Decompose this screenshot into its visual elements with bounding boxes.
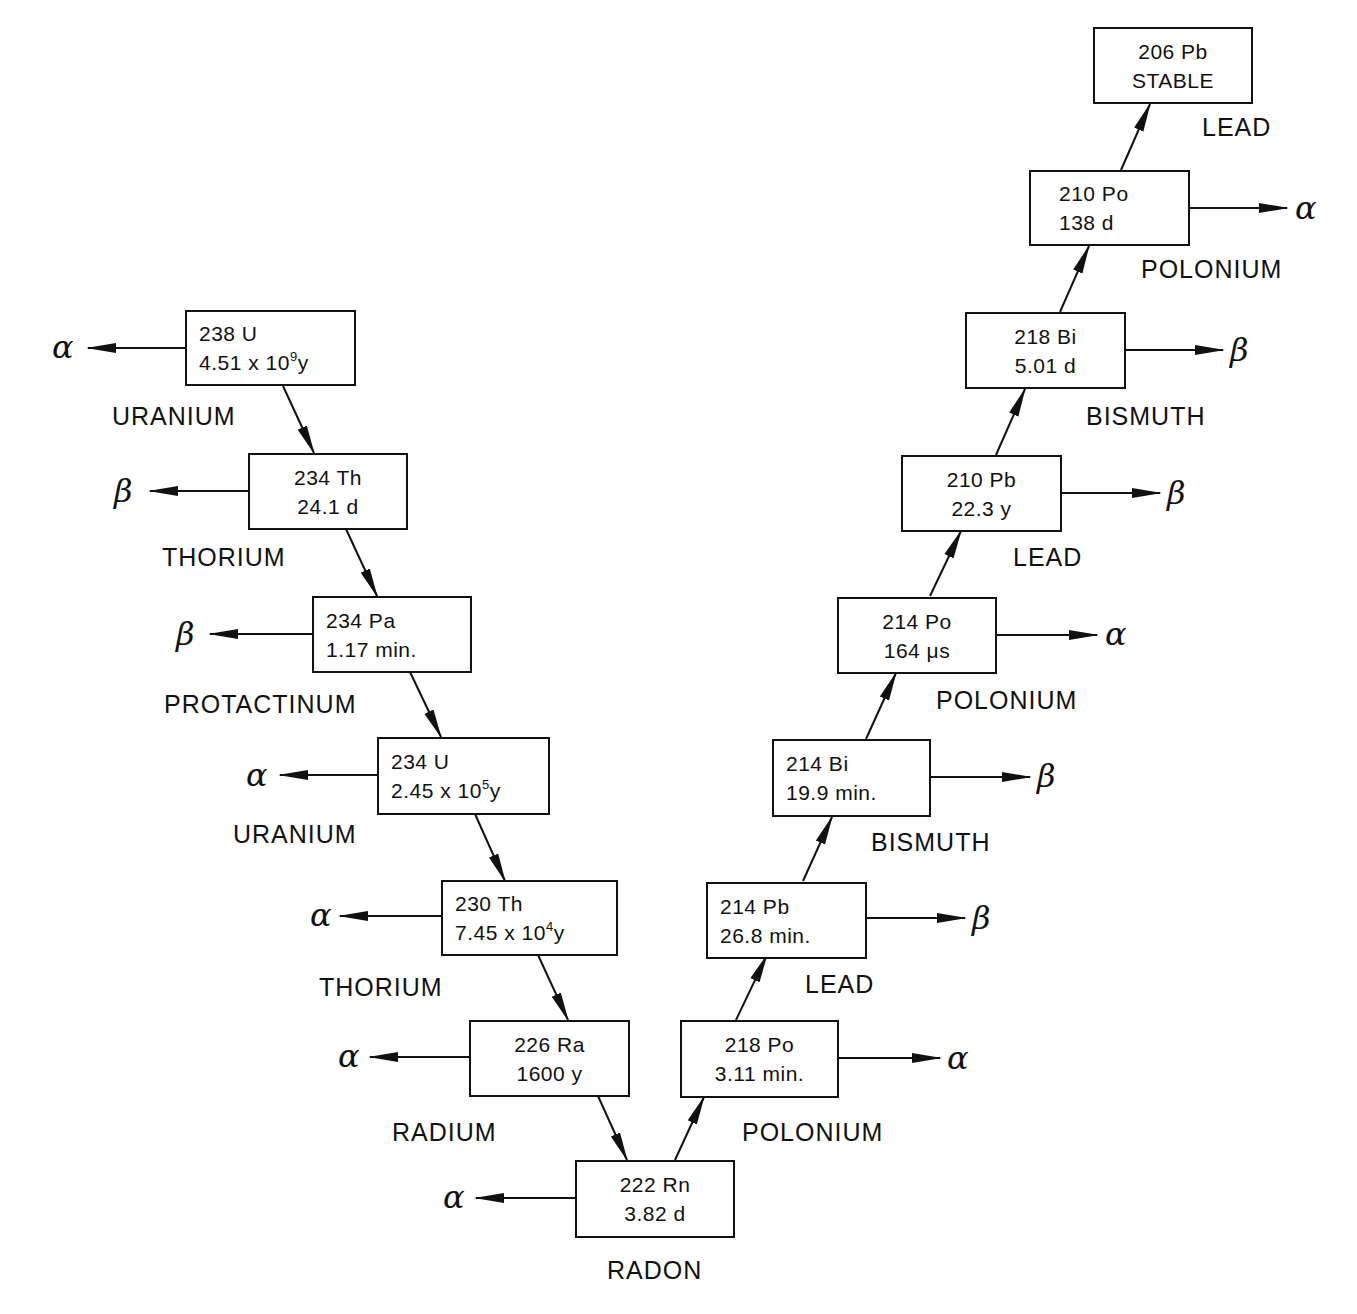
nuclide-box-pb210: 210 Pb 22.3 y xyxy=(901,455,1062,532)
nuclide-halflife: 164 μs xyxy=(884,636,950,665)
element-name: URANIUM xyxy=(233,820,357,849)
element-name: POLONIUM xyxy=(1141,255,1282,284)
nuclide-halflife: 7.45 x 104y xyxy=(455,918,616,947)
nuclide-halflife: 22.3 y xyxy=(951,494,1011,523)
nuclide-halflife: 1600 y xyxy=(516,1059,582,1088)
nuclide-label: 222 Rn xyxy=(620,1170,691,1199)
nuclide-label: 214 Bi xyxy=(786,749,929,778)
nuclide-label: 210 Pb xyxy=(947,465,1017,494)
beta-emission-icon: β xyxy=(176,615,195,653)
beta-emission-icon: β xyxy=(1037,757,1056,795)
nuclide-halflife: 24.1 d xyxy=(297,492,358,521)
alpha-emission-icon: α xyxy=(310,896,332,934)
element-name: URANIUM xyxy=(112,402,236,431)
element-name: BISMUTH xyxy=(871,828,991,857)
nuclide-label: 214 Pb xyxy=(720,892,865,921)
element-name: THORIUM xyxy=(319,973,443,1002)
nuclide-box-th234: 234 Th 24.1 d xyxy=(248,453,408,530)
nuclide-box-po214: 214 Po 164 μs xyxy=(837,597,997,674)
alpha-emission-icon: α xyxy=(246,756,268,794)
element-name: PROTACTINUM xyxy=(164,690,356,719)
nuclide-box-po218: 218 Po 3.11 min. xyxy=(680,1020,839,1098)
nuclide-label: 214 Po xyxy=(882,607,952,636)
nuclide-halflife: 5.01 d xyxy=(1015,351,1076,380)
element-name: POLONIUM xyxy=(742,1118,883,1147)
nuclide-label: 218 Po xyxy=(725,1030,795,1059)
nuclide-label: 210 Po xyxy=(1059,179,1188,208)
beta-emission-icon: β xyxy=(1230,331,1249,369)
element-name: LEAD xyxy=(1202,113,1271,142)
element-name: LEAD xyxy=(1013,543,1082,572)
alpha-emission-icon: α xyxy=(1105,615,1127,653)
nuclide-label: 206 Pb xyxy=(1138,37,1208,66)
nuclide-status: STABLE xyxy=(1132,66,1214,95)
beta-emission-icon: β xyxy=(114,472,133,510)
nuclide-halflife: 138 d xyxy=(1059,208,1188,237)
nuclide-halflife: 3.11 min. xyxy=(715,1059,804,1088)
nuclide-label: 234 Th xyxy=(294,463,362,492)
nuclide-box-th230: 230 Th 7.45 x 104y xyxy=(441,880,618,956)
nuclide-box-pb214: 214 Pb 26.8 min. xyxy=(706,882,867,959)
element-name: BISMUTH xyxy=(1086,402,1206,431)
element-name: RADON xyxy=(607,1256,702,1285)
alpha-emission-icon: α xyxy=(52,328,74,366)
nuclide-box-pa234: 234 Pa 1.17 min. xyxy=(312,596,472,673)
nuclide-box-pb206: 206 Pb STABLE xyxy=(1093,27,1253,104)
nuclide-box-u234: 234 U 2.45 x 105y xyxy=(377,737,550,815)
alpha-emission-icon: α xyxy=(338,1037,360,1075)
element-name: THORIUM xyxy=(162,543,286,572)
element-name: RADIUM xyxy=(392,1118,497,1147)
nuclide-halflife: 2.45 x 105y xyxy=(391,776,548,805)
nuclide-label: 230 Th xyxy=(455,889,616,918)
nuclide-label: 218 Bi xyxy=(1014,322,1077,351)
nuclide-halflife: 1.17 min. xyxy=(326,635,470,664)
alpha-emission-icon: α xyxy=(1295,189,1317,227)
nuclide-halflife: 19.9 min. xyxy=(786,778,929,807)
alpha-emission-icon: α xyxy=(947,1039,969,1077)
nuclide-halflife: 3.82 d xyxy=(624,1199,685,1228)
nuclide-box-rn222: 222 Rn 3.82 d xyxy=(575,1160,735,1238)
alpha-emission-icon: α xyxy=(443,1178,465,1216)
nuclide-box-ra226: 226 Ra 1600 y xyxy=(469,1020,630,1097)
nuclide-label: 234 U xyxy=(391,747,548,776)
element-name: POLONIUM xyxy=(936,686,1077,715)
nuclide-label: 234 Pa xyxy=(326,606,470,635)
nuclide-halflife: 26.8 min. xyxy=(720,921,865,950)
nuclide-halflife: 4.51 x 109y xyxy=(199,348,354,377)
nuclide-box-bi218: 218 Bi 5.01 d xyxy=(965,312,1126,389)
element-name: LEAD xyxy=(805,970,874,999)
beta-emission-icon: β xyxy=(1167,474,1186,512)
nuclide-box-bi214: 214 Bi 19.9 min. xyxy=(772,739,931,817)
nuclide-box-po210: 210 Po 138 d xyxy=(1029,170,1190,246)
beta-emission-icon: β xyxy=(972,899,991,937)
nuclide-label: 238 U xyxy=(199,319,354,348)
nuclide-box-u238: 238 U 4.51 x 109y xyxy=(185,310,356,386)
nuclide-label: 226 Ra xyxy=(514,1030,585,1059)
